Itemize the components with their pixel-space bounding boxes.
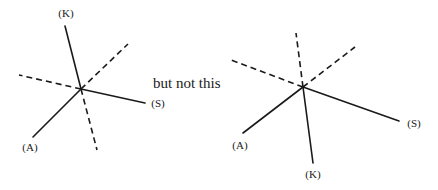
solid-axis-line [303,87,313,163]
solid-axis-line [65,26,81,89]
dashed-axis-line [19,75,81,89]
dashed-axis-line [81,89,97,150]
correct-star-diagram: (K)(S)(A) [19,7,165,154]
axis-label: (K) [58,7,74,20]
dashed-axis-line [303,47,355,87]
axis-label: (A) [232,139,248,152]
axis-label: (A) [22,141,38,154]
incorrect-star-diagram: (A)(S)(K) [231,33,421,181]
axis-label: (S) [151,97,165,110]
diagram-canvas: (K)(S)(A) but not this (A)(S)(K) [0,0,438,190]
dashed-axis-line [231,60,303,87]
axis-label: (K) [305,168,321,181]
dashed-axis-line [81,44,128,89]
solid-axis-line [33,89,81,137]
axis-label: (S) [407,117,421,130]
dashed-axis-line [296,33,303,87]
caption-text: but not this [153,75,221,91]
solid-axis-line [81,89,145,103]
solid-axis-line [303,87,399,121]
solid-axis-line [243,87,303,133]
